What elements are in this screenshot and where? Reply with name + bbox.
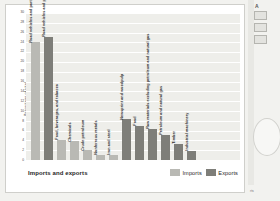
bar[interactable] xyxy=(187,151,196,160)
side-swatch-3[interactable] xyxy=(254,35,267,44)
bar[interactable] xyxy=(70,141,79,160)
bar-group: Industrial machinery xyxy=(186,13,198,160)
y-axis-tick-label: 22 xyxy=(20,51,24,54)
chart-footer: Imports and exports Imports Exports xyxy=(26,164,238,186)
bar-group: Newsprint and woodpulp xyxy=(121,13,133,160)
bar[interactable] xyxy=(122,119,131,160)
y-axis-tick-label: 10 xyxy=(20,110,24,113)
bar-group: Chemicals xyxy=(69,13,81,160)
y-axis-tick-label: 24 xyxy=(20,41,24,44)
bar-group: Raw materials excluding petroleum and na… xyxy=(147,13,159,160)
bar[interactable] xyxy=(109,155,118,160)
chart-card: Percentage of total 02468101214161820222… xyxy=(5,4,245,193)
y-axis-tick-label: 18 xyxy=(20,71,24,74)
bar-category-label: Newsprint and woodpulp xyxy=(121,73,125,119)
bar-category-label: Food xyxy=(134,116,138,125)
bar[interactable] xyxy=(57,140,66,160)
side-panel: A rts xyxy=(250,0,280,201)
bar[interactable] xyxy=(135,126,144,160)
y-axis-tick-label: 28 xyxy=(20,21,24,24)
y-axis-tick-label: 4 xyxy=(22,140,24,143)
bar-series-group: Road vehicles and partsRoad vehicles and… xyxy=(26,13,240,160)
gridline: 0 xyxy=(26,160,240,161)
legend-swatch-exports xyxy=(206,169,216,176)
y-axis-tick-label: 26 xyxy=(20,31,24,34)
y-axis-tick-label: 20 xyxy=(20,61,24,64)
side-panel-caption: rts xyxy=(250,189,254,193)
bar-category-label: Industrial machinery xyxy=(186,113,190,151)
bar-category-label: Road vehicles and parts xyxy=(30,0,34,42)
y-axis-tick-label: 6 xyxy=(22,130,24,133)
legend: Imports Exports xyxy=(170,169,238,176)
bar-group: Road vehicles and parts xyxy=(43,13,55,160)
bar-group: Food xyxy=(134,13,146,160)
bar-group: Crude petroleum xyxy=(82,13,94,160)
legend-item-imports[interactable]: Imports xyxy=(170,169,202,176)
legend-item-exports[interactable]: Exports xyxy=(206,169,238,176)
y-axis-tick-label: 30 xyxy=(20,11,24,14)
legend-label-imports: Imports xyxy=(182,170,201,176)
bar[interactable] xyxy=(44,37,53,160)
plot-area: 024681012141618202224262830 Road vehicle… xyxy=(26,13,240,160)
bar-group: Petroleum and natural gas xyxy=(160,13,172,160)
bar-category-label: Food, beverages, and tobacco xyxy=(56,84,60,140)
bar[interactable] xyxy=(83,150,92,160)
y-axis-tick-label: 2 xyxy=(22,150,24,153)
bar-category-label: Crude petroleum xyxy=(82,119,86,150)
bar-group: Timber xyxy=(173,13,185,160)
side-panel-letter: A xyxy=(255,3,259,9)
bar-category-label: Nonferrous metals xyxy=(95,120,99,154)
screenshot-root: Percentage of total 02468101214161820222… xyxy=(0,0,280,201)
bar-group: Food, beverages, and tobacco xyxy=(56,13,68,160)
bar-category-label: Petroleum and natural gas xyxy=(160,86,164,135)
bar-group: Iron and steel xyxy=(108,13,120,160)
side-swatch-2[interactable] xyxy=(254,23,267,32)
y-axis-tick-label: 8 xyxy=(22,120,24,123)
bar-category-label: Raw materials excluding petroleum and na… xyxy=(147,34,151,129)
legend-label-exports: Exports xyxy=(218,170,238,176)
bar[interactable] xyxy=(148,129,157,160)
bar-category-label: Chemicals xyxy=(69,122,73,141)
y-axis-tick-label: 12 xyxy=(20,100,24,103)
side-swatch-1[interactable] xyxy=(254,11,267,20)
x-axis-title: Imports and exports xyxy=(28,170,88,176)
bar-category-label: Iron and steel xyxy=(108,129,112,154)
y-axis-tick-label: 16 xyxy=(20,80,24,83)
bar-group: Road vehicles and parts xyxy=(30,13,42,160)
bar[interactable] xyxy=(31,42,40,160)
bar-category-label: Road vehicles and parts xyxy=(43,0,47,37)
side-ellipse-graphic xyxy=(253,118,280,156)
legend-swatch-imports xyxy=(170,169,180,176)
bar[interactable] xyxy=(174,144,183,160)
bar[interactable] xyxy=(96,155,105,160)
bar-category-label: Timber xyxy=(173,131,177,144)
y-axis-tick-label: 0 xyxy=(22,159,24,162)
y-axis-tick-label: 14 xyxy=(20,90,24,93)
bar[interactable] xyxy=(161,135,170,160)
bar-group: Nonferrous metals xyxy=(95,13,107,160)
